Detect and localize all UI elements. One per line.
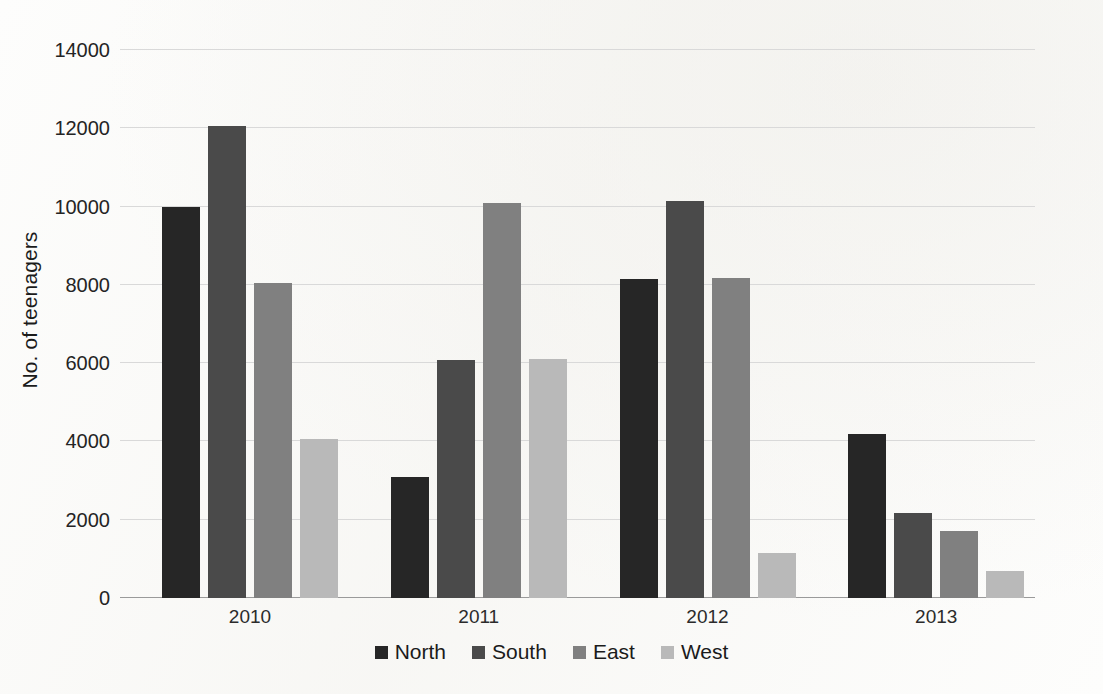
bar: [208, 126, 246, 598]
bar: [391, 477, 429, 598]
y-tick-label: 14000: [24, 39, 110, 62]
bar: [986, 571, 1024, 598]
legend-swatch-icon: [661, 646, 674, 659]
y-axis-tick-labels: 02000400060008000100001200014000: [16, 50, 110, 598]
legend-label: South: [492, 640, 547, 664]
y-tick-label: 0: [24, 587, 110, 610]
bar-chart-figure: No. of teenagers 02000400060008000100001…: [0, 0, 1103, 694]
bar-group: [806, 50, 1035, 598]
legend-item: West: [661, 640, 728, 664]
plot-area: 2010201120122013: [120, 50, 1035, 598]
legend-label: West: [681, 640, 728, 664]
bar: [894, 513, 932, 598]
bar: [300, 439, 338, 598]
bar: [620, 279, 658, 598]
legend-swatch-icon: [472, 646, 485, 659]
legend-label: East: [593, 640, 635, 664]
bar: [529, 359, 567, 598]
y-tick-label: 8000: [24, 273, 110, 296]
bar: [483, 203, 521, 598]
bar: [712, 278, 750, 598]
y-tick-label: 4000: [24, 430, 110, 453]
bar: [437, 360, 475, 598]
y-tick-label: 2000: [24, 508, 110, 531]
legend-label: North: [395, 640, 446, 664]
bar: [758, 553, 796, 598]
x-tick-label: 2010: [229, 606, 271, 628]
bar-group: [120, 50, 349, 598]
legend-item: East: [573, 640, 635, 664]
legend-item: North: [375, 640, 446, 664]
y-tick-label: 6000: [24, 352, 110, 375]
legend-swatch-icon: [573, 646, 586, 659]
bar: [940, 531, 978, 598]
bar: [666, 201, 704, 598]
bar-group: [349, 50, 578, 598]
legend-item: South: [472, 640, 547, 664]
chart-legend: NorthSouthEastWest: [0, 640, 1103, 664]
y-tick-label: 10000: [24, 195, 110, 218]
bar: [254, 283, 292, 598]
x-tick-label: 2012: [686, 606, 728, 628]
bar-group: [578, 50, 807, 598]
x-tick-label: 2011: [458, 606, 499, 628]
bar: [848, 434, 886, 598]
bar: [162, 207, 200, 598]
legend-swatch-icon: [375, 646, 388, 659]
y-tick-label: 12000: [24, 117, 110, 140]
x-tick-label: 2013: [915, 606, 957, 628]
